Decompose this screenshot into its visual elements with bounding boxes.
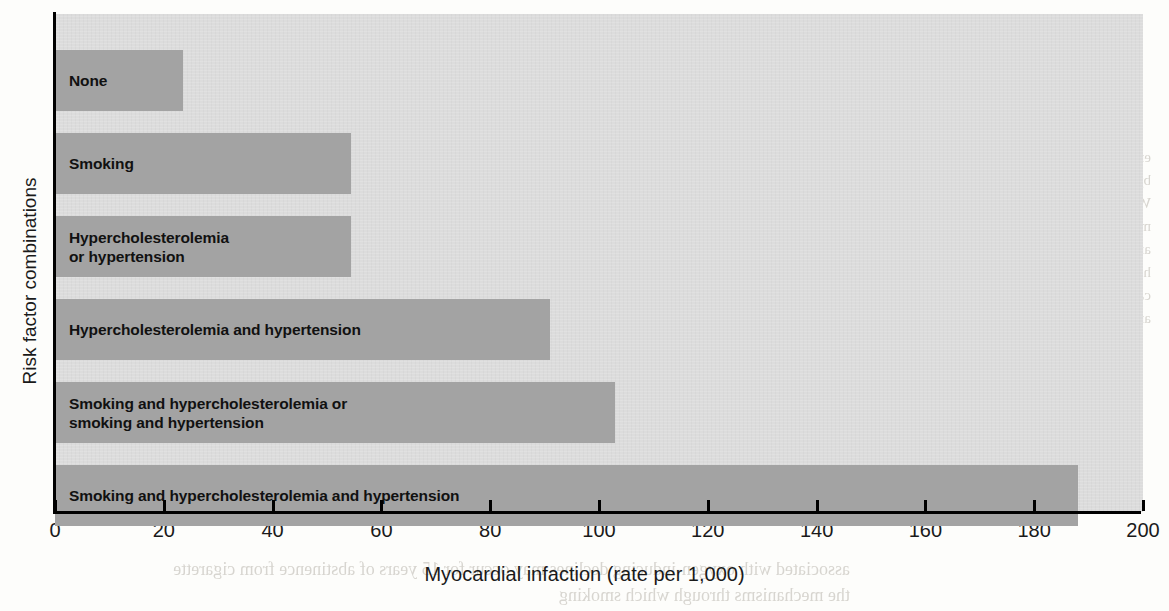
x-tick	[1033, 500, 1036, 511]
bar-label: None	[69, 50, 107, 111]
x-tick	[816, 500, 819, 511]
x-tick	[598, 500, 601, 511]
bar-chart-figure: NoneSmokingHypercholesterolemia or hyper…	[0, 0, 1169, 611]
x-tick	[489, 500, 492, 511]
x-tick	[924, 500, 927, 511]
x-tick-label: 200	[1126, 519, 1159, 542]
x-axis-title: Myocardial infaction (rate per 1,000)	[0, 563, 1169, 586]
y-axis-line	[53, 12, 56, 514]
x-tick	[380, 500, 383, 511]
bar-label: Hypercholesterolemia or hypertension	[69, 216, 229, 277]
bar-label: Smoking	[69, 133, 134, 194]
bar-label: Smoking and hypercholesterolemia and hyp…	[69, 465, 459, 526]
x-tick	[707, 500, 710, 511]
x-tick	[1142, 500, 1145, 511]
bar-label: Smoking and hypercholesterolemia or smok…	[69, 382, 347, 443]
x-axis-line	[53, 511, 1141, 514]
bars-layer: NoneSmokingHypercholesterolemia or hyper…	[55, 14, 1143, 512]
bar-label: Hypercholesterolemia and hypertension	[69, 299, 361, 360]
x-tick	[54, 500, 57, 511]
y-axis-title: Risk factor combinations	[19, 121, 41, 441]
x-tick	[163, 500, 166, 511]
x-tick	[272, 500, 275, 511]
